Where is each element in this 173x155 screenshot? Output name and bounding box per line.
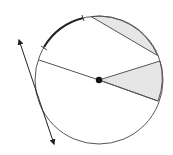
- diameter-line: [39, 60, 99, 80]
- marked-arc: [44, 18, 83, 47]
- center-point: [96, 77, 102, 83]
- shaded-segment: [91, 16, 158, 55]
- shaded-sector: [99, 61, 162, 101]
- circle-diagram: [0, 0, 173, 155]
- tangent-line: [19, 40, 54, 144]
